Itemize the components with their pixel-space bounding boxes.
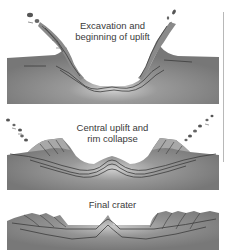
uplift-label-line1: Central uplift and (0, 122, 225, 133)
final-crater-label: Final crater (0, 199, 225, 210)
stage-final-panel: Final crater (0, 195, 225, 250)
stage-excavation-panel: Excavation and beginning of uplift (0, 0, 225, 110)
stage-uplift-panel: Central uplift and rim collapse (0, 110, 225, 195)
uplift-label-line2: rim collapse (0, 133, 225, 144)
excavation-label-line1: Excavation and (0, 20, 225, 31)
excavation-crater-illustration (0, 0, 225, 110)
excavation-label-line2: beginning of uplift (0, 31, 225, 42)
